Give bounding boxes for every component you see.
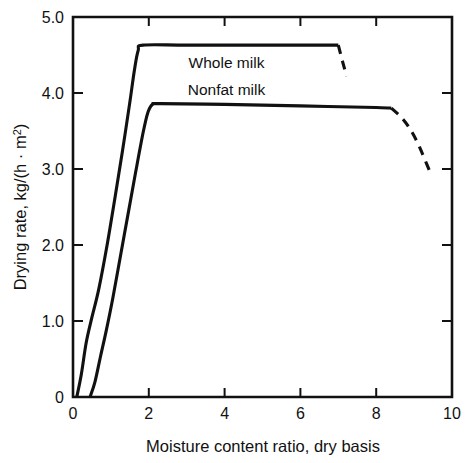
y-tick-label: 0 bbox=[55, 389, 64, 406]
y-tick-label: 4.0 bbox=[42, 85, 64, 102]
figure-container: 0246810 01.02.03.04.05.0 Whole milkNonfa… bbox=[0, 0, 473, 463]
y-tick-label: 1.0 bbox=[42, 313, 64, 330]
y-axis-tick-labels: 01.02.03.04.05.0 bbox=[42, 9, 64, 406]
y-axis-title: Drying rate, kg/(h · m2) bbox=[11, 124, 29, 291]
y-tick-label: 2.0 bbox=[42, 237, 64, 254]
x-axis-ticks bbox=[149, 388, 376, 397]
series-dashed-tail-nonfat-milk bbox=[391, 108, 430, 172]
x-tick-label: 2 bbox=[144, 405, 153, 422]
x-tick-label: 6 bbox=[296, 405, 305, 422]
top-axis-ticks bbox=[149, 17, 376, 26]
right-axis-ticks bbox=[442, 93, 452, 321]
x-axis-title: Moisture content ratio, dry basis bbox=[146, 437, 380, 455]
y-axis-title-group: Drying rate, kg/(h · m2) bbox=[11, 124, 29, 291]
series-labels: Whole milkNonfat milk bbox=[188, 54, 266, 98]
drying-rate-chart: 0246810 01.02.03.04.05.0 Whole milkNonfa… bbox=[0, 0, 473, 463]
x-tick-label: 10 bbox=[443, 405, 461, 422]
series-line-nonfat-milk bbox=[90, 103, 391, 397]
y-tick-label: 5.0 bbox=[42, 9, 64, 26]
series-label-whole-milk: Whole milk bbox=[189, 54, 265, 71]
x-tick-label: 8 bbox=[372, 405, 381, 422]
y-axis-ticks bbox=[73, 93, 83, 321]
x-tick-label: 0 bbox=[69, 405, 78, 422]
x-axis-tick-labels: 0246810 bbox=[69, 405, 461, 422]
series-dashed-tail-whole-milk bbox=[338, 45, 346, 76]
x-tick-label: 4 bbox=[220, 405, 229, 422]
series-label-nonfat-milk: Nonfat milk bbox=[188, 81, 266, 98]
y-tick-label: 3.0 bbox=[42, 161, 64, 178]
